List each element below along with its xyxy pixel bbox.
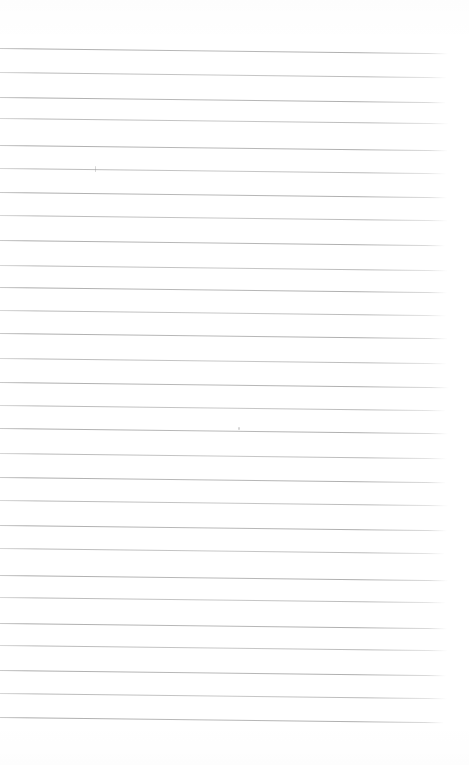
ruled-line: [0, 358, 447, 364]
ruled-line: [0, 333, 448, 339]
ruled-line: [0, 670, 446, 676]
ruled-line: [0, 382, 449, 388]
ruled-line: [0, 215, 448, 221]
ruled-line: [0, 168, 446, 174]
ruled-line: [0, 265, 448, 271]
ruled-line: [0, 192, 447, 198]
scan-speck: [238, 427, 240, 430]
ruled-line: [0, 240, 445, 246]
ruled-line: [0, 405, 446, 411]
ruled-line: [0, 575, 448, 581]
ruled-line: [0, 500, 448, 506]
ruled-line: [0, 428, 448, 434]
scan-speck: [95, 166, 96, 172]
ruled-line: [0, 48, 448, 54]
ruled-line: [0, 597, 446, 603]
ruled-line: [0, 477, 446, 483]
ruled-line: [0, 525, 447, 531]
ruled-line: [0, 72, 447, 78]
ruled-line: [0, 717, 444, 723]
ruled-line: [0, 118, 449, 124]
ruled-line: [0, 645, 448, 651]
ruled-line: [0, 145, 448, 151]
ruled-line: [0, 548, 445, 554]
ruled-line: [0, 287, 447, 293]
ruled-line: [0, 97, 446, 103]
ruled-line: [0, 623, 447, 629]
ruled-line: [0, 310, 446, 316]
ruled-line: [0, 453, 447, 459]
ruled-line: [0, 693, 447, 699]
scanned-ruled-paper-page: [0, 0, 469, 765]
